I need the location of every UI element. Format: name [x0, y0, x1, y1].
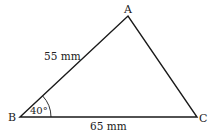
vertex-label-c: C	[199, 112, 207, 125]
triangle-diagram: A B C 55 mm 65 mm 40°	[0, 0, 210, 138]
side-label-bc: 65 mm	[90, 120, 127, 132]
angle-label-b: 40°	[30, 105, 48, 116]
side-label-ab: 55 mm	[44, 50, 81, 62]
vertex-label-b: B	[8, 111, 16, 124]
vertex-label-a: A	[123, 3, 133, 16]
